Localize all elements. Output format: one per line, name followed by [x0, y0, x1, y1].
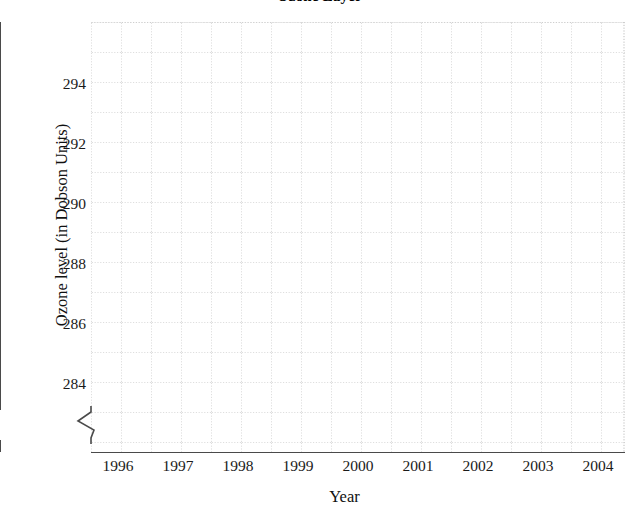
chart-container: Ozone Layer 294 292 290 288 286 284 1996… — [0, 0, 639, 517]
grid-lines — [91, 22, 625, 452]
x-tick-label: 2004 — [568, 458, 628, 474]
y-axis-line-lower-segment — [0, 440, 1, 452]
x-tick-label: 2001 — [388, 458, 448, 474]
x-tick-label: 2000 — [328, 458, 388, 474]
x-tick-label: 2002 — [448, 458, 508, 474]
y-tick-label: 284 — [46, 376, 86, 392]
x-tick-label: 1999 — [268, 458, 328, 474]
x-tick-label: 2003 — [508, 458, 568, 474]
x-tick-label: 1998 — [208, 458, 268, 474]
chart-title: Ozone Layer — [0, 0, 639, 5]
x-axis-tick-labels: 1996 1997 1998 1999 2000 2001 2002 2003 … — [91, 458, 625, 482]
x-tick-label: 1996 — [88, 458, 148, 474]
plot-area — [91, 22, 625, 452]
x-axis-title: Year — [0, 487, 639, 507]
x-tick-label: 1997 — [148, 458, 208, 474]
x-axis-line — [91, 452, 625, 453]
y-axis-title-wrapper: Ozone level (in Dobson Units) — [24, 0, 25, 517]
y-axis-title: Ozone level (in Dobson Units) — [52, 75, 72, 375]
y-axis-line — [0, 22, 1, 410]
